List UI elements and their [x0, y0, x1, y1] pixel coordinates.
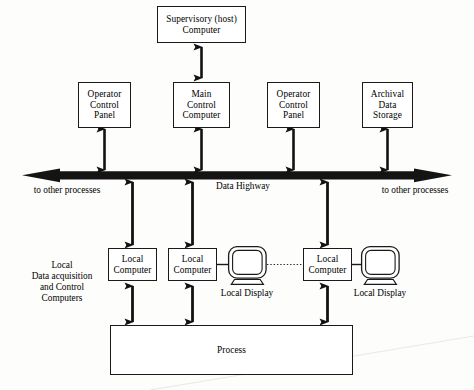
node-main-control-computer[interactable]: Main Control Computer	[173, 82, 230, 128]
operator-panel-left-label-line-1: Operator	[80, 89, 129, 99]
local-display-1-icon	[229, 247, 267, 285]
diagram-canvas: Supervisory (host) Computer Operator Con…	[0, 0, 474, 390]
operator-panel-left-label-line-2: Control	[80, 100, 129, 110]
process-label: Process	[112, 345, 351, 355]
local-computer-2-label-line-1: Local	[170, 254, 215, 264]
archival-data-storage-label-line-2: Data	[364, 100, 411, 110]
node-operator-control-panel-right[interactable]: Operator Control Panel	[267, 82, 320, 128]
main-control-computer-label-line-2: Control	[175, 100, 228, 110]
main-control-computer-label-line-3: Computer	[175, 110, 228, 120]
operator-panel-right-label-line-2: Control	[269, 100, 318, 110]
local-cluster-caption-line-3: and Control	[2, 282, 122, 293]
node-local-computer-2[interactable]: Local Computer	[168, 248, 217, 281]
local-cluster-caption-line-4: Computers	[2, 293, 122, 304]
local-display-2-icon	[362, 247, 400, 285]
data-highway-label: Data Highway	[203, 181, 283, 192]
supervisory-computer-label-line-1: Supervisory (host)	[159, 14, 244, 24]
local-cluster-caption: Local Data acquisition and Control Compu…	[2, 260, 122, 304]
node-process[interactable]: Process	[110, 325, 353, 375]
archival-data-storage-label-line-1: Archival	[364, 89, 411, 99]
to-other-processes-right-label: to other processes	[360, 185, 470, 196]
local-cluster-caption-line-1: Local	[2, 260, 122, 271]
local-computer-2-label-line-2: Computer	[170, 265, 215, 275]
node-operator-control-panel-left[interactable]: Operator Control Panel	[78, 82, 131, 128]
local-computer-3-label-line-1: Local	[305, 254, 350, 264]
main-control-computer-label-line-1: Main	[175, 89, 228, 99]
operator-panel-right-label-line-1: Operator	[269, 89, 318, 99]
to-other-processes-left-label: to other processes	[12, 185, 122, 196]
supervisory-computer-label-line-2: Computer	[159, 25, 244, 35]
local-display-1-label: Local Display	[197, 288, 297, 299]
node-local-computer-3[interactable]: Local Computer	[303, 248, 352, 281]
operator-panel-left-label-line-3: Panel	[80, 110, 129, 120]
node-supervisory-computer[interactable]: Supervisory (host) Computer	[157, 6, 246, 43]
node-archival-data-storage[interactable]: Archival Data Storage	[362, 82, 413, 128]
archival-data-storage-label-line-3: Storage	[364, 110, 411, 120]
operator-panel-right-label-line-3: Panel	[269, 110, 318, 120]
local-computer-3-label-line-2: Computer	[305, 265, 350, 275]
local-display-2-label: Local Display	[330, 288, 430, 299]
local-cluster-caption-line-2: Data acquisition	[2, 271, 122, 282]
